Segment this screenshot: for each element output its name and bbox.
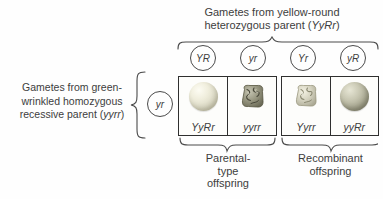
gamete-label-yr-left: yr	[156, 99, 164, 110]
top-parent-label-line2: heterozygous parent (YyRr)	[172, 19, 372, 32]
parental-brace	[180, 138, 275, 151]
offspring-box-recombinant: Yyrr yyRr	[281, 76, 379, 136]
offspring-cell-Yyrr: Yyrr	[282, 77, 330, 135]
gamete-label-yR: yR	[347, 53, 359, 64]
offspring-cell-yyrr: yyrr	[227, 77, 276, 135]
offspring-box-parental: YyRr yyrr	[178, 76, 277, 136]
parental-label-line3: offspring	[188, 177, 268, 190]
wrinkled-green-pea-icon	[239, 83, 266, 109]
recombinant-offspring-label: Recombinant offspring	[283, 152, 378, 177]
genotype-label-YyRr: YyRr	[179, 121, 227, 133]
left-parent-label: Gametes from green- wrinkled homozygous …	[14, 81, 130, 122]
parental-type-offspring-label: Parental- type offspring	[188, 152, 268, 190]
round-yellow-pea-icon	[189, 82, 218, 111]
gamete-label-YR: YR	[196, 53, 210, 64]
left-brace	[129, 70, 147, 140]
genotype-label-yyRr: yyRr	[331, 121, 379, 133]
left-parent-label-line3-suffix: )	[121, 108, 125, 120]
left-parent-label-line1: Gametes from green-	[14, 81, 130, 95]
bottom-braces	[178, 137, 378, 153]
gamete-label-Yr: Yr	[298, 53, 308, 64]
recombinant-label-line2: offspring	[283, 165, 378, 178]
left-parent-label-line3: recessive parent (yyrr)	[14, 108, 130, 122]
top-parent-label-line2-suffix: )	[336, 19, 340, 31]
gamete-circle-yr-left: yr	[147, 91, 173, 117]
parental-label-line1: Parental-	[188, 152, 268, 165]
testcross-punnett-diagram: Gametes from yellow-round heterozygous p…	[0, 0, 383, 199]
left-parent-label-line2: wrinkled homozygous	[14, 95, 130, 109]
parental-label-line2: type	[188, 165, 268, 178]
top-parent-label-line2-prefix: heterozygous parent (	[204, 19, 311, 31]
gamete-circle-Yr: Yr	[290, 45, 316, 71]
genotype-label-yyrr: yyrr	[228, 121, 276, 133]
gamete-circle-yR: yR	[340, 45, 366, 71]
round-green-pea-icon	[340, 82, 369, 111]
gamete-circle-YR: YR	[190, 45, 216, 71]
gene-symbol-yyrr: yyrr	[103, 108, 121, 120]
genotype-label-Yyrr: Yyrr	[282, 121, 330, 133]
gamete-circle-yr-top: yr	[240, 45, 266, 71]
top-parent-label: Gametes from yellow-round heterozygous p…	[172, 6, 372, 32]
recombinant-label-line1: Recombinant	[283, 152, 378, 165]
wrinkled-yellow-pea-icon	[293, 83, 319, 108]
offspring-cell-YyRr: YyRr	[179, 77, 227, 135]
offspring-cell-yyRr: yyRr	[330, 77, 379, 135]
recombinant-brace	[282, 138, 378, 151]
top-parent-label-line1: Gametes from yellow-round	[172, 6, 372, 19]
left-parent-label-line3-prefix: recessive parent (	[20, 108, 103, 120]
gene-symbol-YyRr: YyRr	[311, 19, 335, 31]
gamete-label-yr-top: yr	[249, 53, 257, 64]
